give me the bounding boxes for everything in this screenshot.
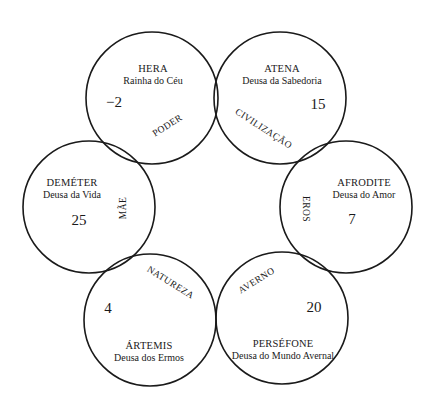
lens-label-averno: AVERNO	[236, 265, 276, 295]
lens-label-eros: EROS	[301, 196, 311, 222]
circle-afrodite	[280, 141, 412, 273]
lens-label-mae: MÃE	[117, 197, 128, 219]
hera-subtitle: Rainha do Céu	[123, 75, 182, 86]
atena-subtitle: Deusa da Sabedoria	[242, 75, 322, 86]
lens-label-poder: PODER	[151, 112, 185, 138]
lens-label-civilizacao: CIVILIZAÇÃO	[233, 106, 294, 151]
artemis-name: ÁRTEMIS	[126, 340, 173, 351]
atena-name: ATENA	[264, 63, 300, 74]
persefone-subtitle: Deusa do Mundo Avernal	[232, 350, 335, 361]
hera-name: HERA	[138, 63, 168, 74]
artemis-value: 4	[104, 300, 112, 316]
demeter-subtitle: Deusa da Vida	[43, 189, 102, 200]
persefone-value: 20	[307, 299, 322, 315]
circle-persefone	[216, 252, 348, 384]
persefone-name: PERSÉFONE	[253, 338, 314, 349]
afrodite-name: AFRODITE	[337, 177, 391, 188]
lens-label-natureza: NATUREZA	[145, 264, 196, 301]
afrodite-subtitle: Deusa do Amor	[333, 189, 396, 200]
hera-value: −2	[106, 94, 122, 110]
demeter-name: DEMÉTER	[47, 177, 98, 188]
atena-value: 15	[311, 96, 326, 112]
circle-demeter	[23, 141, 155, 273]
artemis-subtitle: Deusa dos Ermos	[114, 352, 184, 363]
afrodite-value: 7	[348, 211, 356, 227]
goddess-ring-diagram: HERA Rainha do Céu −2 ATENA Deusa da Sab…	[0, 0, 433, 408]
demeter-value: 25	[72, 212, 87, 228]
